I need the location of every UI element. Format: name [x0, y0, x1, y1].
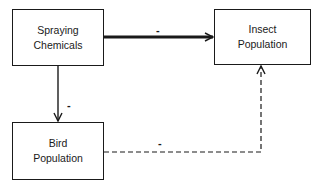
node-insect-population: Insect Population — [214, 9, 311, 65]
edge-sign-spraying-bird: - — [67, 100, 71, 110]
node-label-line1: Spraying — [37, 23, 78, 38]
node-label-line1: Insect — [248, 22, 276, 37]
node-label-line2: Population — [238, 37, 288, 52]
node-spraying-chemicals: Spraying Chemicals — [12, 9, 104, 66]
edge-sign-bird-insect: - — [158, 138, 162, 148]
node-bird-population: Bird Population — [12, 122, 104, 180]
node-label-line2: Chemicals — [33, 38, 82, 53]
edge-sign-spraying-insect: - — [156, 25, 160, 35]
edge-bird-to-insect — [104, 66, 261, 152]
node-label-line2: Population — [33, 151, 83, 166]
node-label-line1: Bird — [49, 136, 68, 151]
